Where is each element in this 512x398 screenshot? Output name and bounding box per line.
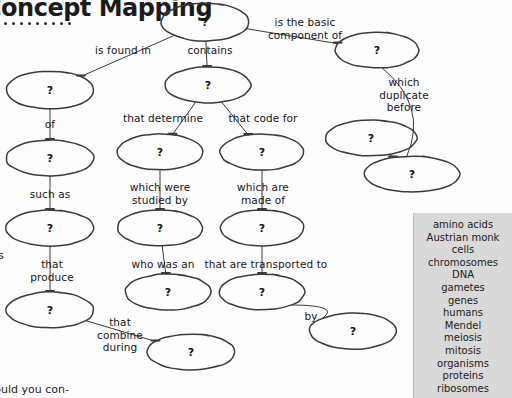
concept-node-placeholder[interactable]: ? — [188, 346, 194, 359]
word-bank-item[interactable]: DNA — [414, 269, 512, 282]
concept-node-placeholder[interactable]: ? — [165, 286, 171, 299]
connector-label: is found in — [95, 44, 151, 57]
connector-label: that combine during — [97, 316, 143, 354]
connector-label: that code for — [228, 112, 297, 125]
word-bank-item[interactable]: gametes — [414, 282, 512, 295]
concept-node-placeholder[interactable]: ? — [157, 222, 163, 235]
concept-node-placeholder[interactable]: ? — [259, 286, 265, 299]
word-bank-item[interactable]: mitosis — [414, 345, 512, 358]
concept-node-placeholder[interactable]: ? — [47, 84, 53, 97]
connector-label: which were studied by — [130, 181, 191, 206]
word-bank-item[interactable]: organisms — [414, 358, 512, 371]
word-bank-item[interactable]: humans — [414, 307, 512, 320]
word-bank-item[interactable]: genes — [414, 295, 512, 308]
concept-node-placeholder[interactable]: ? — [368, 132, 374, 145]
concept-node-placeholder[interactable]: ? — [350, 325, 356, 338]
concept-node-placeholder[interactable]: ? — [47, 222, 53, 235]
edges-layer — [46, 29, 414, 342]
concept-node-placeholder[interactable]: ? — [205, 79, 211, 92]
connector-label: that produce — [30, 258, 73, 283]
side-fragment-text: s — [0, 249, 4, 262]
word-bank-item[interactable]: cells — [414, 244, 512, 257]
word-bank-item[interactable]: Mendel — [414, 320, 512, 333]
word-bank-item[interactable]: chromosomes — [414, 257, 512, 270]
concept-node-placeholder[interactable]: ? — [47, 152, 53, 165]
connector-label: which duplicate before — [379, 76, 429, 114]
concept-node-placeholder[interactable]: ? — [157, 146, 163, 159]
concept-map-worksheet: Concept Mapping ????????????????? is fou… — [0, 0, 512, 398]
connector-label: that are transported to — [205, 258, 328, 271]
word-bank: amino acidsAustrian monkcellschromosomes… — [413, 213, 512, 398]
concept-node-placeholder[interactable]: ? — [259, 222, 265, 235]
word-bank-item[interactable]: amino acids — [414, 219, 512, 232]
word-bank-item[interactable]: proteins — [414, 370, 512, 383]
concept-node-placeholder[interactable]: ? — [409, 168, 415, 181]
connector-label: such as — [30, 188, 71, 201]
connector-label: of — [45, 118, 55, 131]
connector-label: is the basic component of — [268, 16, 342, 41]
word-bank-item[interactable]: Austrian monk — [414, 232, 512, 245]
concept-node-placeholder[interactable]: ? — [374, 44, 380, 57]
connector-label: contains — [187, 44, 232, 57]
concept-node-placeholder[interactable]: ? — [259, 146, 265, 159]
nodes-layer — [6, 3, 460, 370]
connector-label: who was an — [132, 258, 195, 271]
concept-node-placeholder[interactable]: ? — [202, 16, 208, 29]
footer-text: Would you con- — [0, 383, 69, 396]
word-bank-item[interactable]: ribosomes — [414, 383, 512, 396]
connector-label: that determine — [123, 112, 203, 125]
connector-label: by — [304, 310, 317, 323]
concept-node-placeholder[interactable]: ? — [47, 304, 53, 317]
word-bank-item[interactable]: meiosis — [414, 332, 512, 345]
connector-label: which are made of — [237, 181, 289, 206]
